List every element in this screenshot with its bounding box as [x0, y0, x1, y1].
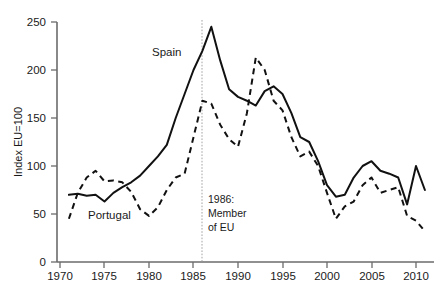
x-tick-label-1985: 1985 [180, 270, 206, 282]
y-tick-label-200: 200 [27, 64, 46, 76]
series-label-portugal: Portugal [88, 209, 131, 221]
y-tick-label-150: 150 [27, 112, 46, 124]
y-tick-label-250: 250 [27, 16, 46, 28]
x-tick-label-2010: 2010 [403, 270, 429, 282]
y-tick-label-50: 50 [33, 208, 46, 220]
y-tick-label-0: 0 [40, 256, 46, 268]
eu-annotation-line-2: Member [208, 207, 247, 219]
x-tick-label-2000: 2000 [314, 270, 340, 282]
eu-annotation-line-3: of EU [208, 221, 234, 233]
x-tick-label-2005: 2005 [359, 270, 385, 282]
index-eu-line-chart: 250 200 150 100 50 0 Index EU=100 1970 1… [0, 0, 442, 295]
eu-annotation-line-1: 1986: [208, 193, 234, 205]
y-axis-title: Index EU=100 [12, 107, 24, 177]
x-tick-label-1975: 1975 [91, 270, 117, 282]
x-tick-label-1995: 1995 [270, 270, 296, 282]
plot-background [0, 0, 442, 295]
x-tick-label-1990: 1990 [225, 270, 251, 282]
x-tick-label-1970: 1970 [47, 270, 73, 282]
y-tick-label-100: 100 [27, 160, 46, 172]
series-label-spain: Spain [152, 46, 181, 58]
x-tick-label-1980: 1980 [136, 270, 162, 282]
